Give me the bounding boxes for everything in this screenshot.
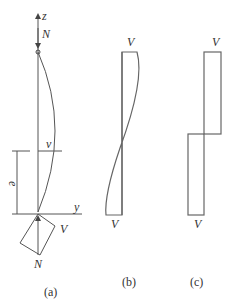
z-axis-label: z bbox=[41, 9, 47, 23]
figure-a: z N v e y V N (a) bbox=[6, 9, 82, 299]
eccentricity-label: e bbox=[6, 181, 20, 187]
deflected-column-curve bbox=[38, 52, 55, 212]
axial-force-top-label: N bbox=[41, 27, 51, 41]
caption-c: (c) bbox=[190, 275, 203, 289]
figure-b: V V (b) bbox=[106, 35, 139, 289]
figure-c: V V (c) bbox=[188, 35, 221, 289]
top-label-c: V bbox=[212, 35, 221, 49]
bottom-label-c: V bbox=[194, 217, 203, 231]
caption-b: (b) bbox=[122, 275, 136, 289]
caption-a: (a) bbox=[44, 285, 57, 299]
shear-block-lower bbox=[188, 134, 204, 215]
shear-force-label: V bbox=[60, 222, 69, 236]
shear-block-upper bbox=[204, 52, 221, 134]
y-axis-label: y bbox=[73, 200, 80, 214]
top-label-b: V bbox=[127, 35, 136, 49]
axial-force-bottom-label: N bbox=[33, 257, 43, 271]
diagram-canvas: z N v e y V N (a) V V (b) V V bbox=[0, 0, 237, 300]
bottom-label-b: V bbox=[111, 217, 120, 231]
deflection-label: v bbox=[46, 137, 52, 151]
